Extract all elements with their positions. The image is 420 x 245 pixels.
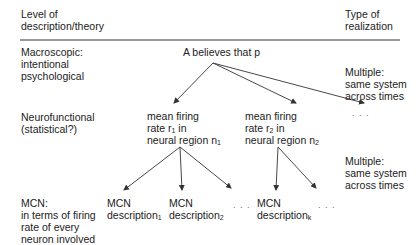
node-neuro2: mean firing rate r2 in neural region n2 (245, 110, 319, 146)
ellipsis-mcn-2: . . . (318, 200, 336, 210)
arrow-neuro1-more (180, 147, 231, 188)
ellipsis-mcn-1: . . . (233, 200, 251, 210)
arrow-root-neuro2 (213, 63, 296, 103)
node-mcn2: MCN description2 (169, 197, 224, 221)
ellipsis-neuro: . . . (352, 108, 370, 118)
node-mcn1: MCN description1 (107, 197, 162, 221)
arrow-neuro1-mcn1 (124, 147, 180, 190)
node-root: A believes that p (183, 46, 260, 58)
realization-macroscopic: Multiple: same system across times (345, 66, 407, 102)
arrow-neuro1-mcn2 (180, 147, 182, 190)
arrow-root-more (213, 63, 364, 103)
realization-neurofunctional: Multiple: same system across times (345, 155, 407, 191)
level-mcn: MCN: in terms of firing rate of every ne… (21, 197, 96, 245)
arrow-neuro2-more (278, 147, 316, 188)
arrow-neuro2-mcnk (276, 147, 278, 190)
arrow-root-neuro1 (174, 63, 213, 103)
level-neurofunctional: Neurofunctional (statistical?) (21, 111, 95, 135)
node-neuro1: mean firing rate r1 in neural region n1 (147, 110, 221, 146)
level-macroscopic: Macroscopic: intentional psychological (21, 46, 84, 82)
node-mcnk: MCN descriptionk (257, 197, 311, 221)
